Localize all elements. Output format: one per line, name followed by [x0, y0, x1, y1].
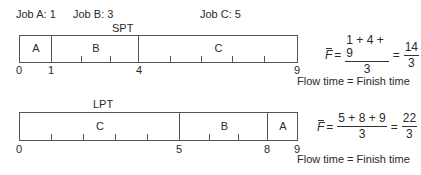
- lpt-tick-label-0: 0: [16, 143, 22, 155]
- tick: [51, 134, 52, 141]
- denominator: 3: [408, 56, 415, 70]
- job-a-label: Job A: 1: [16, 8, 56, 20]
- lpt-segment-c: C: [20, 113, 180, 140]
- segment-label: C: [96, 120, 104, 132]
- segment-label: A: [279, 120, 286, 132]
- spt-segment-c: C: [138, 36, 298, 62]
- numerator: 5 + 8 + 9: [337, 112, 386, 127]
- spt-flow-note: Flow time = Finish time: [297, 75, 410, 87]
- tick: [81, 56, 82, 63]
- mean-flow-symbol: F: [325, 48, 332, 62]
- job-c-label: Job C: 5: [200, 8, 241, 20]
- tick: [110, 56, 111, 63]
- sum-fraction: 1 + 4 + 9 3: [345, 34, 388, 76]
- tick: [264, 56, 265, 63]
- result-fraction: 14 3: [404, 41, 419, 70]
- spt-tick-label-1: 1: [48, 64, 54, 76]
- spt-title: SPT: [112, 22, 133, 34]
- lpt-title: LPT: [93, 98, 113, 110]
- spt-segment-b: B: [51, 36, 140, 62]
- lpt-segment-b: B: [179, 113, 269, 140]
- numerator: 22: [402, 112, 417, 127]
- segment-label: B: [221, 120, 228, 132]
- lpt-tick-label-8: 8: [264, 143, 270, 155]
- spt-tick-label-0: 0: [16, 64, 22, 76]
- segment-label: A: [32, 42, 39, 54]
- tick: [147, 134, 148, 141]
- lpt-gantt-bar: C B A: [19, 112, 298, 141]
- spt-segment-a: A: [20, 36, 52, 62]
- tick: [83, 134, 84, 141]
- sum-fraction: 5 + 8 + 9 3: [337, 112, 386, 141]
- lpt-tick-label-5: 5: [176, 143, 182, 155]
- spt-mean-flow-formula: F = 1 + 4 + 9 3 = 14 3: [325, 34, 421, 76]
- equals-sign: =: [326, 120, 333, 134]
- numerator: 1 + 4 + 9: [345, 34, 388, 62]
- spt-gantt-bar: A B C: [19, 35, 298, 63]
- lpt-segment-a: A: [267, 113, 298, 140]
- equals-sign: =: [334, 48, 341, 62]
- denominator: 3: [364, 62, 371, 76]
- tick: [238, 134, 239, 141]
- segment-label: C: [215, 42, 223, 54]
- equals-sign: =: [391, 120, 398, 134]
- mean-flow-symbol: F: [317, 120, 324, 134]
- job-b-label: Job B: 3: [73, 8, 113, 20]
- tick: [170, 56, 171, 63]
- spt-tick-label-4: 4: [136, 64, 142, 76]
- tick: [209, 134, 210, 141]
- numerator: 14: [404, 41, 419, 56]
- tick: [115, 134, 116, 141]
- tick: [201, 56, 202, 63]
- denominator: 3: [406, 127, 413, 141]
- lpt-flow-note: Flow time = Finish time: [297, 153, 410, 165]
- result-fraction: 22 3: [402, 112, 417, 141]
- lpt-mean-flow-formula: F = 5 + 8 + 9 3 = 22 3: [317, 112, 419, 141]
- equals-sign: =: [393, 48, 400, 62]
- denominator: 3: [359, 127, 366, 141]
- tick: [232, 56, 233, 63]
- segment-label: B: [92, 42, 99, 54]
